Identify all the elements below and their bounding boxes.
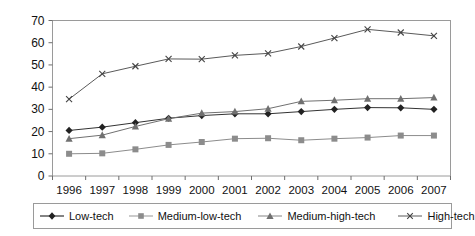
y-tick-label: 0 (38, 169, 45, 183)
x-tick-label: 1997 (89, 184, 115, 196)
x-tick-label: 2004 (322, 184, 348, 196)
legend-item-medium-high-tech: Medium-high-tech (257, 210, 375, 222)
y-axis-ticks (49, 21, 53, 177)
x-tick-label: 2003 (288, 184, 314, 196)
data-point (431, 133, 437, 139)
x-tick-label: 2005 (355, 184, 381, 196)
x-axis-ticks (53, 176, 451, 180)
data-point (331, 136, 337, 142)
y-tick-label: 30 (31, 102, 45, 116)
data-point (99, 150, 105, 156)
legend-swatch-square-icon (128, 210, 154, 222)
chart-legend: Low-tech Medium-low-tech Medium-high-tec… (33, 203, 452, 229)
data-point (199, 139, 205, 145)
y-tick-label: 70 (31, 14, 45, 28)
y-axis-labels: 010203040506070 (31, 14, 45, 184)
data-point (365, 135, 371, 141)
legend-item-high-tech: High-tech (397, 210, 474, 222)
legend-label-high-tech: High-tech (427, 211, 474, 222)
x-tick-label: 1999 (156, 184, 182, 196)
x-axis-labels: 1996199719981999200020012002200320042005… (56, 184, 446, 196)
y-tick-label: 60 (31, 36, 45, 50)
legend-swatch-cross-icon (397, 210, 423, 222)
y-tick-label: 40 (31, 80, 45, 94)
data-point (298, 137, 304, 143)
data-point (232, 136, 238, 142)
x-tick-label: 1996 (56, 184, 82, 196)
x-tick-label: 2000 (189, 184, 215, 196)
legend-swatch-triangle-icon (257, 210, 283, 222)
legend-label-medium-high-tech: Medium-high-tech (287, 211, 375, 222)
legend-item-low-tech: Low-tech (39, 210, 114, 222)
y-tick-label: 20 (31, 125, 45, 139)
legend-item-medium-low-tech: Medium-low-tech (128, 210, 242, 222)
y-tick-label: 10 (31, 147, 45, 161)
data-point (166, 142, 172, 148)
data-point (132, 146, 138, 152)
y-tick-label: 50 (31, 58, 45, 72)
x-tick-label: 2001 (222, 184, 248, 196)
chart-canvas: 010203040506070 199619971998199920002001… (0, 0, 462, 200)
plot-area: 010203040506070 199619971998199920002001… (0, 0, 462, 200)
x-tick-label: 1998 (123, 184, 149, 196)
x-tick-label: 2007 (421, 184, 447, 196)
x-tick-label: 2002 (255, 184, 281, 196)
legend-label-medium-low-tech: Medium-low-tech (158, 211, 242, 222)
legend-label-low-tech: Low-tech (69, 211, 114, 222)
data-point (398, 133, 404, 139)
data-point (265, 135, 271, 141)
legend-swatch-diamond-icon (39, 210, 65, 222)
x-tick-label: 2006 (388, 184, 414, 196)
data-point (66, 151, 72, 157)
